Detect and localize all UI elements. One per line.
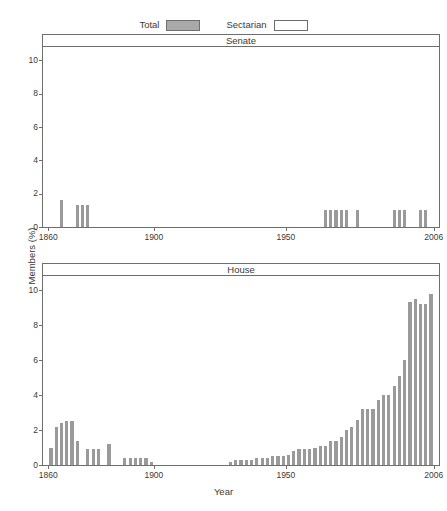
- bar-house-total-1933: [239, 460, 242, 465]
- legend-label-total: Total: [139, 20, 159, 30]
- x-tick-label: 1860: [39, 465, 58, 480]
- y-tick-label: 2: [33, 189, 43, 198]
- bar-senate-total-2001: [419, 210, 422, 227]
- x-tick-label: 1900: [144, 227, 163, 242]
- bar-house-total-1959: [308, 449, 311, 465]
- bar-house-total-2001: [419, 304, 422, 465]
- bar-house-total-1899: [150, 462, 153, 466]
- bar-house-total-1949: [282, 456, 285, 465]
- bar-house-total-2005: [429, 294, 432, 466]
- legend-label-sectarian: Sectarian: [226, 20, 266, 30]
- chart-legend: Total Sectarian: [0, 16, 447, 34]
- bar-house-total-1871: [76, 441, 79, 466]
- legend-swatch-total: [166, 20, 200, 31]
- bar-house-total-1987: [382, 395, 385, 465]
- x-tick-label: 2006: [424, 465, 443, 480]
- x-tick-label: 1900: [144, 465, 163, 480]
- bar-house-total-1937: [250, 460, 253, 465]
- bar-house-total-1963: [319, 446, 322, 465]
- bar-house-total-1957: [303, 449, 306, 465]
- bar-house-total-1971: [340, 437, 343, 465]
- plot-area-senate: 02468101860190019502006: [43, 47, 439, 227]
- y-tick-label: 8: [33, 89, 43, 98]
- bar-house-total-1985: [377, 400, 380, 465]
- y-tick-label: 4: [33, 390, 43, 399]
- bar-house-total-1945: [271, 456, 274, 465]
- legend-entry-total: Total: [139, 20, 200, 31]
- bar-house-total-1863: [55, 427, 58, 466]
- bar-house-total-1891: [129, 458, 132, 465]
- x-tick-label: 2006: [424, 227, 443, 242]
- y-tick-label: 4: [33, 156, 43, 165]
- bar-house-total-1979: [361, 409, 364, 465]
- bar-house-total-1967: [329, 441, 332, 466]
- y-axis-label: Members (%): [26, 227, 37, 284]
- bar-house-total-1973: [345, 430, 348, 465]
- bar-senate-total-1977: [356, 210, 359, 227]
- bar-house-total-1961: [313, 448, 316, 466]
- bar-house-total-1939: [255, 458, 258, 465]
- y-tick-label: 10: [29, 285, 43, 294]
- bar-house-total-1875: [86, 449, 89, 465]
- bar-senate-total-1991: [393, 210, 396, 227]
- bar-senate-total-1965: [324, 210, 327, 227]
- bar-house-total-1997: [408, 302, 411, 465]
- bar-house-total-1893: [134, 458, 137, 465]
- bar-house-total-1877: [92, 449, 95, 465]
- bar-house-total-1995: [403, 360, 406, 465]
- y-tick-label: 10: [29, 56, 43, 65]
- legend-swatch-sectarian: [274, 20, 308, 31]
- bar-house-total-1955: [297, 449, 300, 465]
- bar-house-total-1865: [60, 423, 63, 465]
- bar-house-total-1993: [398, 376, 401, 465]
- bar-house-total-1935: [245, 460, 248, 465]
- bar-house-total-1943: [266, 458, 269, 465]
- bar-senate-total-1971: [340, 210, 343, 227]
- bar-senate-total-1871: [76, 205, 79, 227]
- bar-senate-total-2003: [424, 210, 427, 227]
- x-tick-label: 1950: [276, 227, 295, 242]
- bar-house-total-1965: [324, 446, 327, 465]
- bar-senate-total-1995: [403, 210, 406, 227]
- bar-senate-total-1973: [345, 210, 348, 227]
- panel-title-house: House: [42, 263, 440, 275]
- bar-house-total-1895: [139, 458, 142, 465]
- bar-house-total-1897: [144, 458, 147, 465]
- bar-senate-total-1865: [60, 200, 63, 227]
- bar-senate-total-1969: [334, 210, 337, 227]
- bar-house-total-1947: [276, 456, 279, 465]
- bar-house-total-1975: [350, 427, 353, 466]
- plot-box-senate: 02468101860190019502006: [42, 46, 440, 228]
- bar-house-total-1941: [261, 458, 264, 465]
- bar-house-total-1889: [123, 458, 126, 465]
- x-tick-label: 1950: [276, 465, 295, 480]
- bar-house-total-1983: [371, 409, 374, 465]
- legend-entry-sectarian: Sectarian: [226, 20, 307, 31]
- y-tick-label: 6: [33, 122, 43, 131]
- x-tick-label: 1860: [39, 227, 58, 242]
- y-tick-label: 6: [33, 355, 43, 364]
- bar-house-total-1981: [366, 409, 369, 465]
- bar-house-total-2003: [424, 304, 427, 465]
- bar-house-total-1861: [49, 448, 52, 466]
- bar-house-total-1951: [287, 455, 290, 466]
- bar-senate-total-1993: [398, 210, 401, 227]
- y-tick-label: 2: [33, 425, 43, 434]
- x-axis-label: Year: [0, 486, 447, 497]
- bar-senate-total-1873: [81, 205, 84, 227]
- panel-title-senate: Senate: [42, 34, 440, 46]
- bar-house-total-1867: [65, 421, 68, 465]
- bar-house-total-1989: [387, 395, 390, 465]
- bar-house-total-1977: [356, 420, 359, 466]
- bar-house-total-1929: [229, 462, 232, 466]
- panel-senate: Senate 02468101860190019502006: [42, 34, 440, 228]
- figure: Total Sectarian Members (%) Senate 02468…: [0, 0, 447, 511]
- bar-house-total-1999: [414, 299, 417, 465]
- bar-house-total-1883: [107, 444, 110, 465]
- bar-house-total-1869: [70, 421, 73, 465]
- bar-house-total-1879: [97, 449, 100, 465]
- plot-area-house: 02468101860190019502006: [43, 276, 439, 465]
- plot-box-house: 02468101860190019502006: [42, 275, 440, 466]
- panel-house: House 02468101860190019502006: [42, 263, 440, 466]
- y-tick-label: 8: [33, 320, 43, 329]
